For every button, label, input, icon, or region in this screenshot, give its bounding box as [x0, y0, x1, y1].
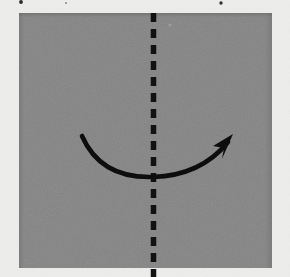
paper-grain-overlay [19, 13, 272, 268]
diagram-canvas: Origami fold step diagram A square sheet… [0, 0, 290, 277]
paper-edge-left-shadow [19, 13, 24, 268]
speck-top-mid [65, 2, 67, 4]
paper-edge-right-shadow [265, 13, 272, 268]
speck-paper-highlight [168, 23, 171, 26]
paper-group [19, 13, 272, 268]
origami-diagram: Origami fold step diagram A square sheet… [0, 0, 290, 277]
paper-edge-top-shadow [19, 13, 272, 17]
speck-top-left [19, 0, 23, 4]
speck-top-right [219, 1, 222, 4]
